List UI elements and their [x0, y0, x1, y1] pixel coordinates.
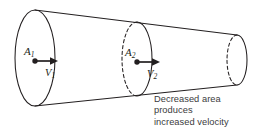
- caption-line-2: produces: [154, 105, 258, 116]
- velocity-1-label: V1: [45, 67, 55, 80]
- figure-container: A1 V1 A2 V2 Decreased area produces incr…: [0, 0, 260, 140]
- area-1-label: A1: [23, 45, 34, 59]
- velocity-2-label: V2: [147, 68, 157, 81]
- caption-line-3: increased velocity: [154, 117, 258, 128]
- area-2-label: A2: [124, 46, 136, 60]
- velocity-2-arrow-head: [152, 58, 160, 65]
- caption-block: Decreased area produces increased veloci…: [154, 94, 258, 128]
- caption-line-1: Decreased area: [154, 94, 258, 105]
- mid-cross-section-front-arc: [137, 22, 152, 96]
- outlet-cross-section-back-arc: [227, 35, 237, 85]
- inlet-cross-section-ellipse: [15, 10, 55, 106]
- outlet-cross-section-front-arc: [237, 35, 247, 85]
- velocity-1-arrow-head: [50, 57, 58, 64]
